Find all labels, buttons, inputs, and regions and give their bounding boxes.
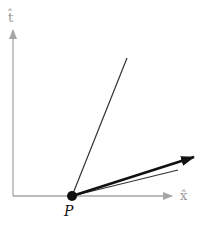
vector-arrow [72, 157, 194, 196]
point-p-label: P [63, 203, 74, 219]
t-axis-label: t̂ [7, 8, 14, 25]
x-axis-label: x̂ [180, 188, 188, 203]
steep-line [72, 58, 127, 196]
spacetime-diagram: t̂ x̂ P [0, 0, 206, 227]
point-p [67, 191, 77, 201]
